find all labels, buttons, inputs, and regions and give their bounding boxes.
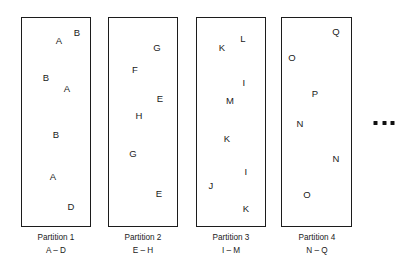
record-key-letter: N <box>332 154 339 164</box>
partition-caption-title: Partition 2 <box>125 232 162 245</box>
record-key-letter: L <box>240 34 245 44</box>
record-key-letter: J <box>209 181 214 191</box>
record-key-letter: E <box>156 189 163 199</box>
ellipsis-dot <box>391 121 395 125</box>
partition-caption-range: A – D <box>38 245 75 258</box>
partition-box-2 <box>108 17 178 227</box>
partition-caption-1: Partition 1A – D <box>38 232 75 257</box>
partition-caption-range: N – Q <box>299 245 336 258</box>
diagram-canvas: ABBABADPartition 1A – DGFEHGEPartition 2… <box>0 0 409 267</box>
record-key-letter: A <box>50 172 57 182</box>
record-key-letter: M <box>226 96 234 106</box>
record-key-letter: G <box>153 43 161 53</box>
record-key-letter: Q <box>332 27 340 37</box>
record-key-letter: B <box>53 130 60 140</box>
partition-box-3 <box>196 17 266 227</box>
record-key-letter: F <box>132 65 138 75</box>
record-key-letter: K <box>224 134 231 144</box>
record-key-letter: G <box>129 149 137 159</box>
ellipsis-dot <box>374 121 378 125</box>
record-key-letter: A <box>56 36 63 46</box>
partition-box-1 <box>21 17 91 227</box>
record-key-letter: H <box>135 111 142 121</box>
record-key-letter: A <box>64 84 71 94</box>
partition-caption-title: Partition 1 <box>38 232 75 245</box>
record-key-letter: K <box>243 204 250 214</box>
partition-caption-range: I – M <box>213 245 250 258</box>
partition-caption-title: Partition 3 <box>213 232 250 245</box>
partition-caption-4: Partition 4N – Q <box>299 232 336 257</box>
partition-caption-title: Partition 4 <box>299 232 336 245</box>
ellipsis-dot <box>382 121 386 125</box>
record-key-letter: I <box>245 167 248 177</box>
record-key-letter: D <box>67 202 74 212</box>
partition-caption-range: E – H <box>125 245 162 258</box>
record-key-letter: K <box>219 43 226 53</box>
record-key-letter: P <box>312 89 319 99</box>
record-key-letter: O <box>288 53 296 63</box>
record-key-letter: B <box>43 73 50 83</box>
partition-box-4 <box>281 17 352 227</box>
record-key-letter: O <box>303 190 311 200</box>
record-key-letter: E <box>157 94 164 104</box>
record-key-letter: N <box>296 119 303 129</box>
partition-caption-2: Partition 2E – H <box>125 232 162 257</box>
record-key-letter: I <box>243 78 246 88</box>
record-key-letter: B <box>74 28 81 38</box>
more-partitions-ellipsis-icon <box>374 121 395 125</box>
partition-caption-3: Partition 3I – M <box>213 232 250 257</box>
